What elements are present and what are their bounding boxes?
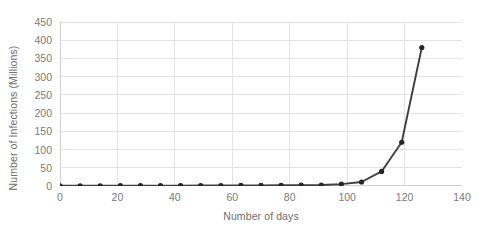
y-tick-label: 200 xyxy=(22,108,56,119)
y-tick-label: 100 xyxy=(22,144,56,155)
series-line-path xyxy=(60,48,422,186)
y-tick-label: 300 xyxy=(22,71,56,82)
x-axis-tick-labels: 020406080100120140 xyxy=(0,192,485,208)
y-tick-label: 250 xyxy=(22,90,56,101)
x-tick-label: 20 xyxy=(112,192,124,203)
infections-line-chart: Number of Infections (Millions) 05010015… xyxy=(0,0,485,236)
axis-lines xyxy=(60,22,462,186)
series-data-markers xyxy=(60,45,424,186)
y-tick-label: 400 xyxy=(22,35,56,46)
x-axis-title: Number of days xyxy=(60,210,462,222)
x-tick-label: 120 xyxy=(396,192,414,203)
y-tick-label: 0 xyxy=(22,181,56,192)
plot-canvas xyxy=(60,22,462,186)
x-tick-label: 100 xyxy=(338,192,356,203)
x-tick-label: 80 xyxy=(284,192,296,203)
x-tick-label: 140 xyxy=(453,192,471,203)
y-tick-label: 50 xyxy=(22,163,56,174)
horizontal-gridlines xyxy=(60,22,462,186)
x-tick-label: 40 xyxy=(169,192,181,203)
x-tick-label: 0 xyxy=(57,192,63,203)
y-tick-label: 450 xyxy=(22,17,56,28)
plot-area xyxy=(60,22,462,186)
y-tick-label: 150 xyxy=(22,126,56,137)
x-tick-label: 60 xyxy=(226,192,238,203)
y-tick-label: 350 xyxy=(22,53,56,64)
